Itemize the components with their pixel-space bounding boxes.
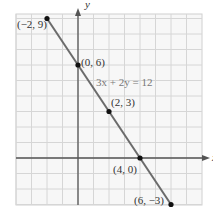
point-2-3 xyxy=(106,109,111,114)
point-label-6-neg3: (6, −3) xyxy=(134,194,164,207)
x-axis-label: x xyxy=(211,151,213,163)
equation-label: 3x + 2y = 12 xyxy=(96,76,152,88)
line-graph: x y (−2, 9) (0, 6) 3x + 2y = 12 (2, 3) (… xyxy=(0,0,213,217)
point-label-neg2-9: (−2, 9) xyxy=(17,18,47,31)
point-0-6 xyxy=(75,62,80,67)
point-6-neg3 xyxy=(168,202,173,207)
point-label-2-3: (2, 3) xyxy=(111,96,135,109)
point-4-0 xyxy=(137,155,142,160)
x-axis-arrow-icon xyxy=(202,155,210,161)
point-label-4-0: (4, 0) xyxy=(113,163,137,176)
y-axis-label: y xyxy=(84,0,90,10)
point-label-0-6: (0, 6) xyxy=(81,56,105,69)
y-axis-arrow-icon xyxy=(75,8,81,16)
